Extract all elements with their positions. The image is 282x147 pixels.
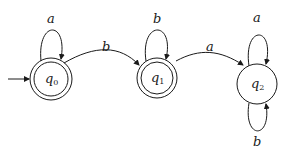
state-q0-name: q	[45, 71, 53, 86]
svg-text:q0: q0	[45, 71, 58, 87]
svg-text:q2: q2	[251, 76, 264, 92]
label-q2-q2-a: a	[253, 10, 261, 25]
state-q1-name: q	[151, 70, 159, 85]
state-q2-name: q	[251, 76, 259, 91]
label-q2-q2-b: b	[253, 134, 261, 147]
transition-q1-q2	[176, 52, 243, 65]
state-q2-sub: 2	[259, 83, 264, 92]
state-q2: q2	[237, 64, 277, 104]
dfa-diagram: q0 q1 q2 a b b a a b	[0, 0, 282, 147]
state-q1: q1	[137, 58, 177, 98]
label-q0-q0: a	[47, 11, 55, 26]
state-q0: q0	[30, 58, 72, 100]
transition-q1-q1	[145, 30, 167, 61]
diagram-svg: q0 q1 q2 a b b a a b	[0, 0, 282, 147]
svg-text:q1: q1	[151, 70, 164, 86]
state-q1-sub: 1	[159, 77, 164, 86]
state-q0-sub: 0	[53, 78, 58, 87]
transition-q2-q2-a	[248, 35, 267, 66]
label-q0-q1: b	[102, 39, 110, 54]
transition-q2-q2-b	[248, 103, 267, 131]
label-q1-q2: a	[206, 39, 214, 54]
transition-q0-q0	[41, 30, 62, 61]
label-q1-q1: b	[153, 11, 161, 26]
